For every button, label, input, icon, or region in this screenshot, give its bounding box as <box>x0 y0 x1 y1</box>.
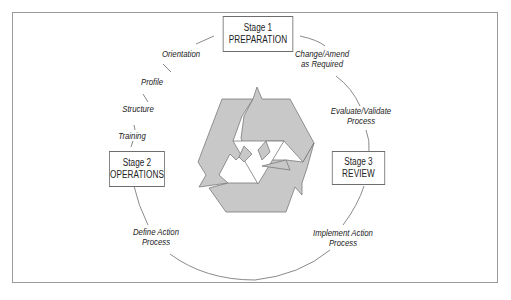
stage-3-name: REVIEW <box>333 168 385 180</box>
stage-1-number: Stage 1 <box>224 22 293 34</box>
stage-3-number: Stage 3 <box>333 156 385 168</box>
step-profile: Profile <box>141 77 163 87</box>
step-change-amend: Change/Amend as Required <box>295 49 349 69</box>
step-define-action: Define Action Process <box>133 227 179 247</box>
step-evaluate-validate: Evaluate/Validate Process <box>331 106 391 126</box>
stage-2-box: Stage 2 OPERATIONS <box>109 151 165 187</box>
stage-1-box: Stage 1 PREPARATION <box>223 16 294 52</box>
step-implement-action: Implement Action Process <box>313 228 373 248</box>
stage-2-number: Stage 2 <box>110 157 164 169</box>
stage-1-name: PREPARATION <box>224 34 293 46</box>
step-training: Training <box>118 131 146 141</box>
recycle-icon <box>198 87 314 212</box>
stage-3-box: Stage 3 REVIEW <box>332 151 385 185</box>
stage-2-name: OPERATIONS <box>110 169 164 181</box>
step-structure: Structure <box>122 104 154 114</box>
step-orientation: Orientation <box>162 49 200 59</box>
